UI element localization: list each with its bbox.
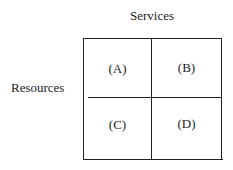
grid-top-border: [83, 38, 222, 39]
resources-axis-label: Resources: [11, 80, 64, 96]
cell-b: (B): [152, 60, 221, 76]
grid-vertical-divider: [151, 38, 152, 160]
cell-d: (D): [152, 116, 221, 132]
services-axis-label: Services: [130, 8, 174, 24]
grid-bottom-border: [84, 159, 223, 160]
grid-right-border: [221, 38, 222, 160]
grid-horizontal-divider: [88, 97, 222, 98]
cell-a: (A): [84, 61, 151, 77]
grid-left-border: [83, 38, 84, 160]
cell-c: (C): [84, 117, 151, 133]
